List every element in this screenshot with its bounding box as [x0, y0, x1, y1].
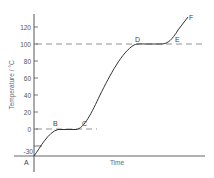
point-label-a: A	[24, 159, 29, 166]
y-tick-120: 120	[20, 24, 31, 31]
y-ticks	[34, 27, 42, 146]
y-tick-80: 80	[24, 58, 32, 65]
x-axis-title: Time	[110, 159, 125, 166]
point-label-f: F	[189, 14, 193, 21]
y-tick-0: 0	[27, 126, 31, 133]
y-tick-40: 40	[24, 92, 32, 99]
y-tick-100: 100	[20, 41, 31, 48]
point-label-d: D	[135, 36, 140, 43]
point-label-b: B	[53, 120, 58, 127]
y-axis-title: Temperature / °C	[8, 60, 16, 110]
point-label-e: E	[175, 36, 180, 43]
y-tick-minus30: -30	[24, 148, 34, 155]
y-tick-20: 20	[24, 109, 32, 116]
heating-curve-line	[34, 17, 188, 156]
heating-curve-chart: 120 100 80 60 40 20 0 -30 Temperature / …	[0, 0, 214, 178]
point-label-c: C	[82, 120, 87, 127]
y-tick-60: 60	[24, 75, 32, 82]
